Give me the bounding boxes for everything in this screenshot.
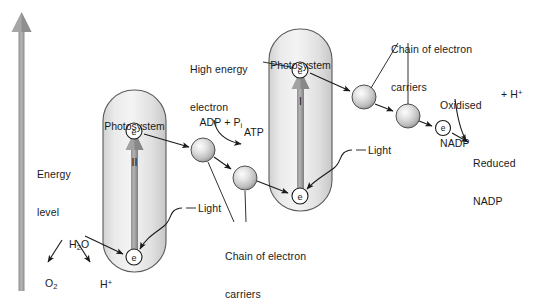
svg-text:e: e: [131, 253, 136, 263]
chain-of-electron-carriers-label-left: Chain of electron carriers: [225, 225, 306, 303]
plus-proton-superscript: +: [518, 88, 522, 97]
electron-carrier-sphere: [233, 166, 257, 190]
plus-proton-label: + H+: [489, 74, 523, 113]
energy-level-line2: level: [37, 206, 71, 219]
oxidised-nadp-line1: Oxidised: [440, 99, 482, 112]
photosystem-i-numeral: I: [269, 95, 332, 107]
chain-left-line1: Chain of electron: [225, 250, 306, 263]
electron-psi-bottom-icon: e: [292, 188, 308, 204]
proton-h: H: [100, 278, 108, 290]
water-h: H: [69, 238, 77, 250]
energy-level-arrow-icon: [12, 12, 32, 291]
energy-level-line1: Energy: [37, 168, 71, 181]
adp-pi-label: ADP + Pi: [188, 103, 242, 144]
electron-carrier-sphere: [352, 85, 376, 109]
chain-left-line2: carriers: [225, 288, 306, 301]
leader-chain-left-b: [245, 191, 246, 222]
water-o: O: [81, 238, 89, 250]
oxygen-label: O2: [33, 264, 58, 303]
adp-pi-subscript: i: [241, 120, 243, 129]
photosystem-ii-name: Photosystem: [103, 120, 166, 132]
photosystem-i-title: Photosystem I: [269, 35, 332, 131]
photosystem-i-name: Photosystem: [269, 59, 332, 71]
svg-text:e: e: [297, 192, 302, 202]
oxygen-subscript: 2: [53, 281, 57, 290]
photosynthesis-diagram: e e e e e Energy level Photosystem II Ph…: [0, 0, 537, 303]
high-energy-electron-line1: High energy: [190, 63, 248, 76]
proton-label: H+: [88, 264, 112, 303]
photosystem-ii-numeral: II: [103, 156, 166, 168]
reduced-nadp-label: Reduced NADP: [473, 132, 516, 232]
adp-pi-text: ADP + P: [200, 116, 241, 128]
arrow-carrier1-to-carrier2: [214, 157, 231, 169]
chain-right-line1: Chain of electron: [391, 43, 472, 56]
water-label: H2O: [57, 225, 89, 266]
plus-proton-text: + H: [501, 88, 518, 100]
light-label-left: Light: [198, 202, 221, 215]
proton-superscript: +: [108, 278, 112, 287]
reduced-nadp-line2: NADP: [473, 195, 516, 208]
reduced-nadp-line1: Reduced: [473, 157, 516, 170]
electron-psii-bottom-icon: e: [126, 249, 142, 265]
arrow-carrier4-to-electron: [419, 121, 432, 126]
photosystem-ii-title: Photosystem II: [103, 96, 166, 192]
atp-label: ATP: [244, 126, 264, 139]
light-label-right: Light: [368, 144, 391, 157]
